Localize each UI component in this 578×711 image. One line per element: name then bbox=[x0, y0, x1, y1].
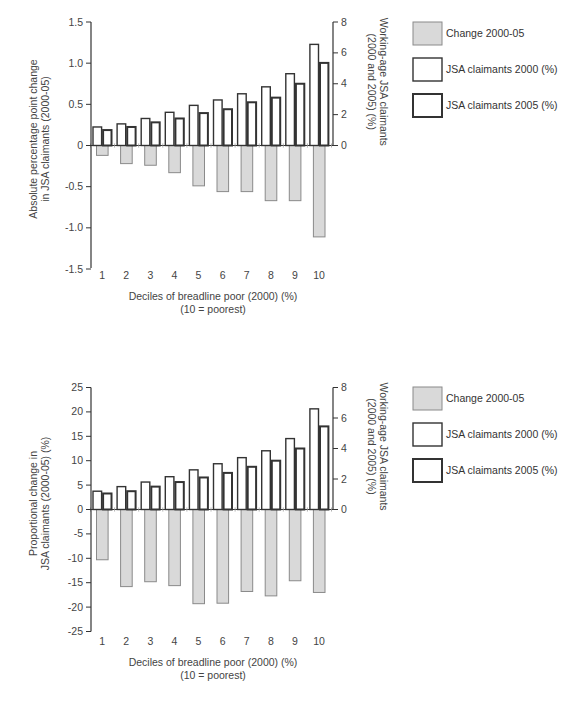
legend-swatch bbox=[413, 22, 442, 45]
bar-jsa-2000 bbox=[189, 470, 198, 510]
legend-swatch bbox=[413, 459, 442, 482]
bar-group-decile-9 bbox=[286, 74, 305, 201]
bar-jsa-2000 bbox=[238, 94, 247, 146]
bar-jsa-2000 bbox=[214, 100, 223, 146]
bar-jsa-2005 bbox=[296, 84, 304, 146]
bar-change bbox=[313, 146, 325, 237]
bar-jsa-2005 bbox=[175, 482, 183, 509]
bar-jsa-2000 bbox=[262, 451, 271, 510]
bar-group-decile-4 bbox=[165, 477, 183, 586]
bar-group-decile-2 bbox=[117, 487, 135, 587]
bar-change bbox=[241, 510, 253, 592]
right-tick-label: 4 bbox=[341, 442, 347, 454]
x-tick-label: 8 bbox=[268, 635, 274, 647]
x-tick-label: 7 bbox=[244, 269, 250, 281]
left-tick-label: 1.0 bbox=[68, 57, 83, 69]
right-tick-label: 6 bbox=[341, 412, 347, 424]
bar-jsa-2000 bbox=[165, 112, 174, 145]
bar-change bbox=[265, 146, 277, 201]
bar-jsa-2005 bbox=[272, 461, 280, 510]
left-tick-label: -1.5 bbox=[65, 263, 83, 275]
bar-group-decile-1 bbox=[93, 127, 112, 155]
left-tick-label: 15 bbox=[71, 430, 83, 442]
bar-jsa-2005 bbox=[224, 473, 232, 510]
bar-group-decile-5 bbox=[189, 470, 208, 604]
x-tick-label: 3 bbox=[147, 269, 153, 281]
bar-change bbox=[145, 510, 157, 582]
left-tick-label: 1.5 bbox=[68, 16, 83, 28]
legend-label: JSA claimants 2000 (%) bbox=[446, 428, 557, 440]
left-tick-label: 10 bbox=[71, 454, 83, 466]
legend-swatch bbox=[413, 94, 442, 117]
right-axis-title: Working-age JSA claimants(2000 and 2005)… bbox=[366, 382, 390, 510]
bar-jsa-2005 bbox=[248, 102, 256, 145]
legend-label: JSA claimants 2005 (%) bbox=[446, 99, 557, 111]
x-axis-subtitle: (10 = poorest) bbox=[180, 669, 246, 681]
bar-change bbox=[193, 510, 205, 604]
right-tick-label: 8 bbox=[341, 16, 347, 28]
x-tick-label: 7 bbox=[244, 635, 250, 647]
bar-change bbox=[121, 146, 133, 164]
x-tick-label: 2 bbox=[123, 269, 129, 281]
bar-group-decile-6 bbox=[214, 464, 233, 603]
bar-change bbox=[169, 146, 181, 173]
chart-1: 1.51.00.50-0.5-1.0-1.5Absolute percentag… bbox=[27, 16, 557, 316]
bar-change bbox=[217, 510, 229, 604]
legend-label: Change 2000-05 bbox=[446, 392, 524, 404]
legend-item: Change 2000-05 bbox=[413, 387, 524, 410]
bar-change bbox=[145, 146, 157, 166]
bar-change bbox=[289, 510, 301, 581]
left-tick-label: -5 bbox=[74, 527, 83, 539]
x-tick-label: 1 bbox=[99, 269, 105, 281]
legend-item: Change 2000-05 bbox=[413, 22, 524, 45]
bar-jsa-2005 bbox=[103, 493, 111, 509]
bar-change bbox=[97, 146, 109, 156]
x-axis-title: Deciles of breadline poor (2000) (%) bbox=[129, 290, 298, 302]
left-axis-title: Proportional change inJSA claimants (200… bbox=[27, 437, 51, 571]
bar-group-decile-1 bbox=[93, 491, 112, 560]
bar-change bbox=[97, 510, 109, 560]
bar-jsa-2000 bbox=[189, 105, 198, 145]
x-tick-label: 9 bbox=[292, 635, 298, 647]
bar-jsa-2000 bbox=[286, 74, 295, 146]
x-axis-subtitle: (10 = poorest) bbox=[180, 303, 246, 315]
x-tick-label: 2 bbox=[123, 635, 129, 647]
bar-group-decile-10 bbox=[310, 44, 329, 237]
bar-jsa-2000 bbox=[238, 458, 247, 510]
x-tick-label: 3 bbox=[147, 635, 153, 647]
bar-jsa-2000 bbox=[262, 87, 271, 146]
bar-jsa-2005 bbox=[151, 122, 159, 145]
bar-jsa-2005 bbox=[224, 109, 232, 145]
x-tick-label: 1 bbox=[99, 635, 105, 647]
bar-group-decile-10 bbox=[310, 409, 329, 593]
x-tick-label: 6 bbox=[220, 635, 226, 647]
right-tick-label: 6 bbox=[341, 46, 347, 58]
bar-jsa-2000 bbox=[117, 487, 126, 510]
legend-swatch bbox=[413, 387, 442, 410]
left-tick-label: 5 bbox=[77, 479, 83, 491]
x-tick-label: 9 bbox=[292, 269, 298, 281]
bar-change bbox=[169, 510, 181, 586]
left-tick-label: 20 bbox=[71, 405, 83, 417]
left-axis-title: Absolute percentage point changein JSA c… bbox=[27, 59, 51, 219]
left-tick-label: 0 bbox=[77, 503, 83, 515]
bar-change bbox=[313, 510, 325, 593]
left-tick-label: 0.5 bbox=[68, 98, 83, 110]
bar-jsa-2000 bbox=[165, 477, 174, 510]
bar-jsa-2000 bbox=[310, 409, 319, 510]
bar-change bbox=[217, 146, 229, 192]
bar-jsa-2005 bbox=[320, 63, 328, 146]
legend: Change 2000-05JSA claimants 2000 (%)JSA … bbox=[413, 22, 557, 117]
bar-group-decile-3 bbox=[141, 482, 160, 582]
bar-group-decile-3 bbox=[141, 118, 160, 165]
x-tick-label: 10 bbox=[313, 269, 325, 281]
left-tick-label: -20 bbox=[68, 601, 83, 613]
legend-swatch bbox=[413, 423, 442, 446]
left-tick-label: -10 bbox=[68, 552, 83, 564]
bar-jsa-2005 bbox=[248, 467, 256, 510]
bar-group-decile-8 bbox=[262, 451, 280, 596]
bar-jsa-2000 bbox=[214, 464, 223, 510]
legend-item: JSA claimants 2005 (%) bbox=[413, 94, 557, 117]
bar-change bbox=[241, 146, 253, 192]
bar-jsa-2005 bbox=[296, 449, 304, 510]
